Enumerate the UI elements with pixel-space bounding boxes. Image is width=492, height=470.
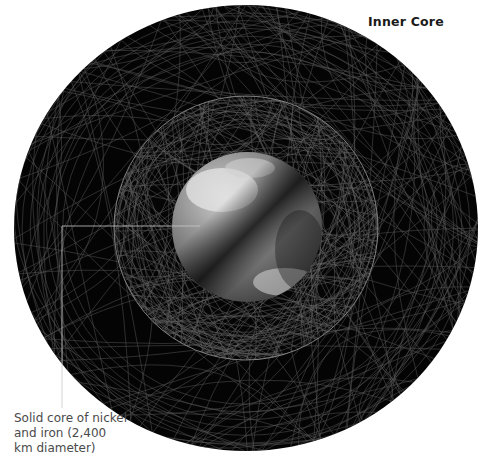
core-caption: Solid core of nickel and iron (2,400 km … <box>14 411 174 456</box>
caption-line: and iron (2,400 <box>14 426 174 441</box>
caption-line: Solid core of nickel <box>14 411 174 426</box>
caption-line: km diameter) <box>14 441 174 456</box>
diagram-title: Inner Core <box>368 14 444 29</box>
inner-core-diagram: Inner Core Solid core of nickel and iron… <box>0 0 492 470</box>
earth-layers-illustration <box>0 0 492 470</box>
